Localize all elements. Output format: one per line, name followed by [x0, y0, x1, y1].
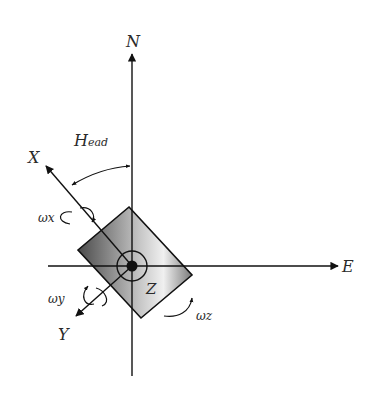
y-label: Y [58, 325, 70, 344]
north-label: N [125, 32, 141, 51]
east-label: E [341, 257, 354, 276]
omega-z-label: ωz [196, 309, 213, 323]
x-label: X [26, 148, 40, 167]
heading-arc [72, 166, 130, 185]
z-label: Z [145, 280, 157, 298]
omega-y-label: ωy [48, 292, 65, 306]
coordinate-diagram: N E X Y Z Head ωx ωy ωz [0, 0, 372, 394]
heading-label: Head [73, 131, 108, 150]
omega-x-label: ωx [38, 211, 55, 225]
omega-z-rotation-icon [164, 298, 192, 316]
omega-y-rotation-icon [84, 286, 107, 306]
z-axis-dot [127, 261, 138, 272]
